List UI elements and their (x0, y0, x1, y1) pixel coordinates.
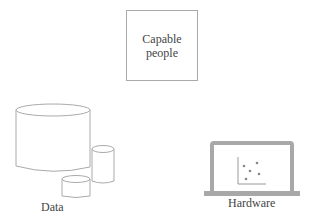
data-label: Data (41, 200, 64, 215)
database-cylinders-icon (16, 104, 114, 198)
hardware-label: Hardware (228, 196, 275, 211)
scatter-plot-icon (238, 157, 266, 184)
laptop-icon (204, 143, 300, 196)
diagram-graphics (0, 0, 314, 218)
